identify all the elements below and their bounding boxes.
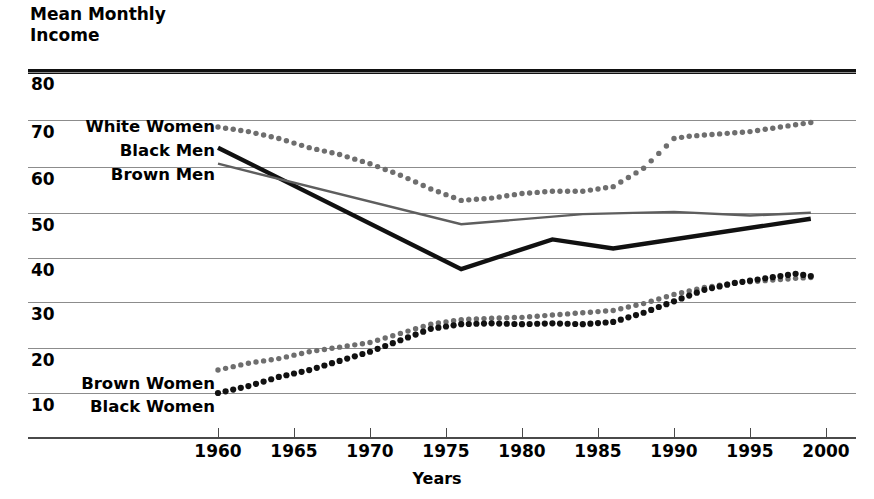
- series-white-women: [215, 120, 813, 203]
- gridline-20: [28, 348, 856, 349]
- xtick-1995: 1995: [726, 441, 773, 461]
- xtick-1975: 1975: [422, 441, 469, 461]
- xtick-1985: 1985: [574, 441, 621, 461]
- xtick-mark-1985: [598, 428, 599, 437]
- series-black-men: [218, 148, 811, 270]
- chart-title-line2: Income: [30, 25, 290, 46]
- series-label-brown-men: Brown Men: [0, 165, 215, 184]
- series-label-white-women: White Women: [0, 117, 215, 136]
- gridline-30: [28, 302, 856, 303]
- xtick-mark-1970: [370, 428, 371, 437]
- xtick-mark-2000: [826, 428, 827, 437]
- xtick-mark-1965: [294, 428, 295, 437]
- xtick-1990: 1990: [650, 441, 697, 461]
- ytick-80: 80: [31, 74, 55, 94]
- xtick-mark-1975: [446, 428, 447, 437]
- xtick-mark-1990: [674, 428, 675, 437]
- chart-title: Mean Monthly Income: [30, 4, 290, 45]
- xtick-1960: 1960: [194, 441, 241, 461]
- xtick-1980: 1980: [498, 441, 545, 461]
- xtick-1965: 1965: [270, 441, 317, 461]
- series-label-brown-women: Brown Women: [0, 374, 215, 393]
- series-label-black-men: Black Men: [0, 141, 215, 160]
- x-axis-title: Years: [0, 469, 874, 488]
- series-brown-men: [218, 164, 811, 225]
- chart-title-line1: Mean Monthly: [30, 4, 290, 25]
- gridline-50: [28, 213, 856, 214]
- xtick-mark-1995: [750, 428, 751, 437]
- series-black-women: [215, 271, 814, 396]
- ytick-50: 50: [31, 215, 55, 235]
- series-brown-women: [215, 275, 813, 373]
- gridline-10: [28, 393, 856, 394]
- gridline-40: [28, 258, 856, 259]
- gridline-80: [28, 72, 856, 73]
- chart-container: Mean Monthly Income 80 70 60 50 40 30 20…: [0, 0, 874, 499]
- xtick-mark-1980: [522, 428, 523, 437]
- x-axis-line: [28, 437, 856, 439]
- series-label-black-women: Black Women: [0, 397, 215, 416]
- xtick-1970: 1970: [346, 441, 393, 461]
- ytick-30: 30: [31, 304, 55, 324]
- xtick-mark-1960: [218, 428, 219, 437]
- plot-area: [0, 0, 874, 499]
- ytick-20: 20: [31, 350, 55, 370]
- ytick-40: 40: [31, 260, 55, 280]
- xtick-2000: 2000: [802, 441, 849, 461]
